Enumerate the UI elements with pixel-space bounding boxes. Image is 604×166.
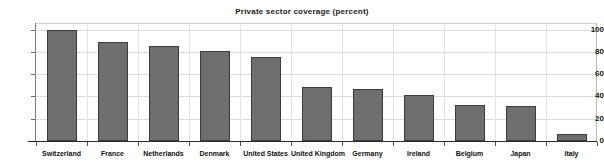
y-axis-tick-label: 60 <box>578 70 604 78</box>
x-axis-tick-label: United States <box>240 150 291 158</box>
x-axis-tick-mark <box>36 142 37 146</box>
y-axis-tick-mark <box>31 119 35 120</box>
x-axis-tick-mark <box>138 142 139 146</box>
bar-belgium <box>455 105 485 141</box>
x-axis-tick-mark <box>342 142 343 146</box>
y-axis-tick-mark <box>31 96 35 97</box>
bar-japan <box>506 106 536 141</box>
x-axis-tick-label: Switzerland <box>36 150 87 158</box>
bar-switzerland <box>47 30 77 141</box>
bar-united-kingdom <box>302 87 332 141</box>
y-axis-tick-mark <box>31 52 35 53</box>
gridline-vertical <box>138 24 139 141</box>
y-axis-tick-label: 40 <box>578 92 604 100</box>
x-axis-tick-mark <box>444 142 445 146</box>
gridline-vertical <box>546 24 547 141</box>
y-axis-tick-label: 20 <box>578 115 604 123</box>
bar-ireland <box>404 95 434 141</box>
x-axis-tick-label: Japan <box>495 150 546 158</box>
x-axis-tick-label: Netherlands <box>138 150 189 158</box>
bar-united-states <box>251 57 281 141</box>
y-axis-tick-mark <box>31 30 35 31</box>
gridline-vertical <box>342 24 343 141</box>
x-axis-tick-mark <box>495 142 496 146</box>
gridline-vertical <box>291 24 292 141</box>
x-axis-tick-label: Italy <box>546 150 597 158</box>
bar-italy <box>557 134 587 141</box>
x-axis-tick-mark <box>87 142 88 146</box>
gridline-vertical <box>393 24 394 141</box>
x-axis-tick-mark <box>393 142 394 146</box>
x-axis-tick-mark <box>546 142 547 146</box>
x-axis-tick-label: Ireland <box>393 150 444 158</box>
gridline-vertical <box>189 24 190 141</box>
x-axis-tick-mark <box>189 142 190 146</box>
gridline-horizontal <box>36 30 597 31</box>
x-axis-tick-mark <box>240 142 241 146</box>
x-axis-line <box>28 141 597 142</box>
x-axis-tick-mark <box>597 142 598 146</box>
bar-france <box>98 42 128 141</box>
x-axis-tick-label: Belgium <box>444 150 495 158</box>
x-axis-tick-mark <box>291 142 292 146</box>
y-axis-tick-label: 80 <box>578 48 604 56</box>
y-axis-line <box>35 23 36 142</box>
gridline-vertical <box>87 24 88 141</box>
x-axis-tick-label: Germany <box>342 150 393 158</box>
bar-germany <box>353 89 383 141</box>
y-axis-tick-mark <box>31 74 35 75</box>
bar-netherlands <box>149 46 179 141</box>
gridline-vertical <box>444 24 445 141</box>
gridline-vertical <box>240 24 241 141</box>
x-axis-tick-label: Denmark <box>189 150 240 158</box>
bar-denmark <box>200 51 230 141</box>
private-sector-coverage-bar-chart: Private sector coverage (percent) 020406… <box>0 0 604 166</box>
x-axis-tick-label: United Kingdom <box>291 150 342 158</box>
gridline-vertical <box>495 24 496 141</box>
chart-title: Private sector coverage (percent) <box>0 7 604 16</box>
x-axis-tick-label: France <box>87 150 138 158</box>
y-axis-tick-label: 100 <box>578 26 604 34</box>
